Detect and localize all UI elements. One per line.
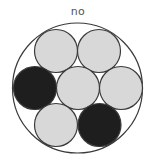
inner-circle-center-light [57,67,100,110]
inner-circle-bottom-right-dark [78,104,121,147]
inner-circle-bottom-left-light [35,104,78,147]
inner-circle-middle-left-dark [14,67,57,110]
circle-packing-diagram [0,0,151,160]
inner-circle-middle-right-light [100,67,143,110]
inner-circle-top-left-light [35,30,78,73]
inner-circle-top-right-light [78,30,121,73]
